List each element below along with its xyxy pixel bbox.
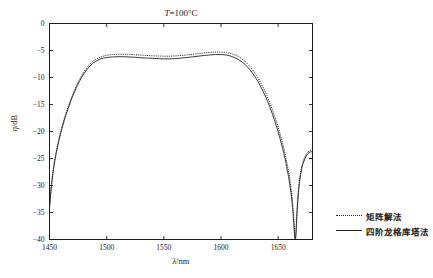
x-axis-label-rest: /nm [176, 256, 189, 266]
x-axis-label: λ/nm [49, 256, 313, 266]
y-axis-label-rest: /dB [9, 115, 19, 127]
y-tick-label: −30 [23, 181, 45, 190]
y-tick-label: −10 [23, 73, 45, 82]
series-curve-0 [50, 52, 313, 239]
legend-label-rungekutta: 四阶龙格库塔法 [366, 225, 429, 237]
legend-entry-rungekutta: 四阶龙格库塔法 [336, 223, 433, 238]
x-tick-label: 1600 [206, 243, 236, 252]
legend-label-matrix: 矩阵解法 [366, 210, 402, 222]
y-axis-label-symbol: η [9, 127, 19, 131]
x-tick-label: 1650 [263, 243, 293, 252]
chart-legend: 矩阵解法 四阶龙格库塔法 [336, 208, 433, 238]
y-tick-label: −20 [23, 127, 45, 136]
y-tick-label: −35 [23, 208, 45, 217]
series-curve-1 [50, 54, 313, 239]
legend-swatch-solid [336, 226, 362, 236]
y-tick-label: −25 [23, 154, 45, 163]
legend-entry-matrix: 矩阵解法 [336, 208, 433, 223]
y-tick-label: 0 [23, 19, 45, 28]
y-tick-label: −15 [23, 100, 45, 109]
y-tick-label: −5 [23, 46, 45, 55]
chart-figure: T=100°C η/dB λ/nm 0−5−10−15−20−25−30−35−… [0, 0, 433, 278]
x-tick-label: 1550 [149, 243, 179, 252]
x-tick-label: 1500 [92, 243, 122, 252]
legend-swatch-dotted [336, 211, 362, 221]
x-tick-label: 1450 [35, 243, 65, 252]
y-axis-label: η/dB [9, 101, 19, 145]
